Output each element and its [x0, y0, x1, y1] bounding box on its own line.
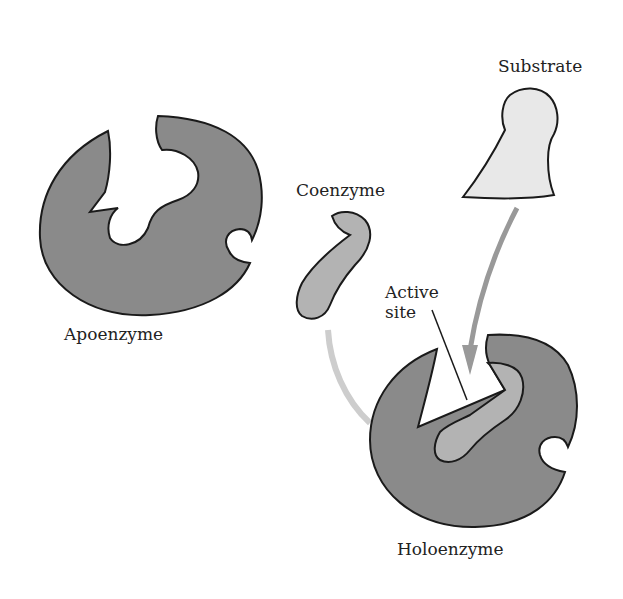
holoenzyme-label: Holoenzyme: [397, 539, 503, 559]
enzyme-diagram: [0, 0, 623, 599]
active-site-pointer: [432, 310, 467, 400]
active-site-label-line1: Active: [385, 282, 439, 302]
apoenzyme-shape: [40, 116, 262, 315]
substrate-label: Substrate: [498, 56, 582, 76]
coenzyme-arrow: [328, 330, 370, 423]
apoenzyme-label: Apoenzyme: [64, 324, 163, 344]
active-site-label-line2: site: [385, 302, 416, 322]
coenzyme-shape: [297, 212, 370, 319]
substrate-arrow: [470, 208, 517, 350]
substrate-shape: [463, 88, 557, 198]
coenzyme-label: Coenzyme: [296, 180, 385, 200]
substrate-arrowhead: [462, 345, 478, 375]
